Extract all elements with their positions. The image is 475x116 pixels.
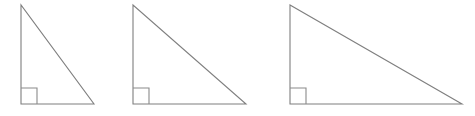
triangle-3-outline [290, 5, 462, 104]
right-triangles-diagram [0, 0, 475, 116]
triangle-3-right-angle-icon [290, 88, 306, 104]
triangle-2-right-angle-icon [133, 88, 149, 104]
triangle-1-right-angle-icon [21, 88, 37, 104]
triangle-group-2 [133, 5, 246, 104]
figure-canvas [0, 0, 475, 116]
triangle-1-outline [21, 5, 94, 104]
triangle-group-1 [21, 5, 94, 104]
triangle-2-outline [133, 5, 246, 104]
triangle-group-3 [290, 5, 462, 104]
